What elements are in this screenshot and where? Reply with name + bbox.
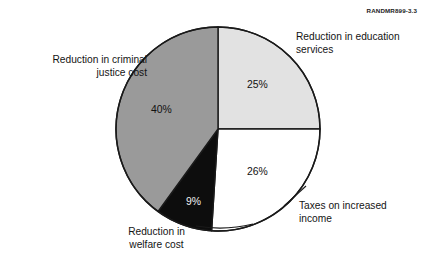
slice-label-welfare: Reduction in welfare cost [104, 226, 209, 251]
slice-value-taxes: 26% [247, 166, 268, 177]
slice-label-taxes: Taxes on increased income [299, 200, 425, 225]
slice-value-criminal-justice: 40% [151, 104, 172, 115]
slice-value-welfare: 9% [186, 196, 201, 207]
slice-label-education: Reduction in education services [296, 31, 424, 56]
slice-label-criminal-justice: Reduction in criminal justice cost [2, 54, 147, 79]
figure-container: RANDMR899-3.3 Reduction in education ser… [0, 0, 426, 273]
slice-value-education: 25% [247, 79, 268, 90]
